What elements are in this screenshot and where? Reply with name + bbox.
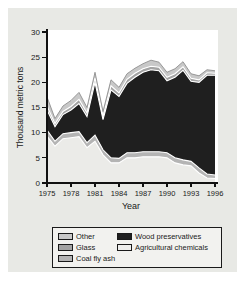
x-tick-label: 1990 [159,189,176,198]
y-tick-label: 30 [31,28,40,37]
x-tick-label: 1978 [63,189,80,198]
y-tick-label: 25 [31,53,40,62]
legend-label-agricultural-chemicals: Agricultural chemicals [135,243,208,253]
x-tick-label: 1984 [111,189,128,198]
x-tick-label: 1981 [87,189,104,198]
stacked-area-chart: 0510152025301975197819811984198719901993… [8,8,237,220]
y-tick-label: 5 [36,154,41,163]
legend-item-wood-preservatives: Wood preservatives [117,232,216,242]
x-tick-label: 1975 [39,189,56,198]
legend-label-glass: Glass [76,243,95,253]
legend-swatch-other [58,233,73,240]
figure-panel: 0510152025301975197819811984198719901993… [8,8,237,272]
legend: Other Wood preservatives Glass Agricultu… [52,227,222,268]
x-tick-label: 1996 [207,189,224,198]
legend-label-other: Other [76,232,95,242]
legend-swatch-wood-preservatives [117,233,132,240]
legend-item-other: Other [58,232,115,242]
legend-item-agricultural-chemicals: Agricultural chemicals [117,243,216,253]
y-tick-label: 20 [31,78,40,87]
page: 0510152025301975197819811984198719901993… [0,0,241,283]
x-tick-label: 1993 [183,189,200,198]
x-tick-label: 1987 [135,189,152,198]
legend-swatch-glass [58,244,73,251]
y-tick-label: 15 [31,103,40,112]
legend-label-coal-fly-ash: Coal fly ash [76,254,115,264]
legend-label-wood-preservatives: Wood preservatives [135,232,201,242]
y-tick-label: 0 [36,179,41,188]
legend-item-coal-fly-ash: Coal fly ash [58,254,115,264]
legend-swatch-coal-fly-ash [58,255,73,262]
y-tick-label: 10 [31,128,40,137]
y-axis-title: Thousand metric tons [15,67,25,149]
legend-swatch-agricultural-chemicals [117,244,132,251]
x-axis-title: Year [122,201,140,211]
legend-item-glass: Glass [58,243,115,253]
